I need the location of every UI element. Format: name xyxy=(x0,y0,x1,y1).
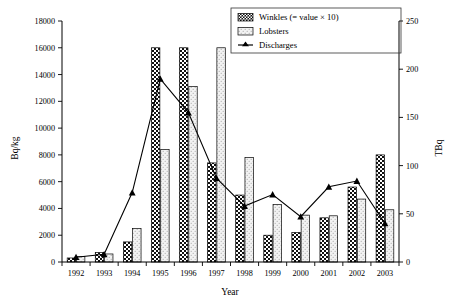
left-tick-label: 8000 xyxy=(39,151,55,160)
bar-light-1999 xyxy=(273,204,281,262)
x-axis-title: Year xyxy=(221,287,239,297)
left-tick-label: 4000 xyxy=(39,204,55,213)
x-tick-label: 2003 xyxy=(377,269,393,278)
y-axis-title-left: Bq/kg xyxy=(10,136,20,159)
x-tick-label: 1999 xyxy=(264,269,280,278)
left-tick-label: 16000 xyxy=(35,44,55,53)
left-tick-label: 10000 xyxy=(35,124,55,133)
bar-dark-1994 xyxy=(123,242,131,262)
right-axis-ticks: 050100150200250 xyxy=(399,17,418,267)
right-tick-label: 50 xyxy=(406,210,414,219)
right-tick-label: 200 xyxy=(406,65,418,74)
x-tick-label: 1996 xyxy=(180,269,196,278)
bar-light-2001 xyxy=(329,216,337,262)
left-tick-label: 18000 xyxy=(35,17,55,26)
x-tick-label: 1993 xyxy=(96,269,112,278)
bar-light-1997 xyxy=(217,48,225,262)
bar-light-2002 xyxy=(357,199,365,262)
x-tick-label: 1998 xyxy=(236,269,252,278)
bar-dark-1997 xyxy=(208,163,216,262)
left-tick-label: 6000 xyxy=(39,178,55,187)
bar-dark-2000 xyxy=(292,233,300,262)
y-axis-title-right: TBq xyxy=(434,139,444,156)
bar-dark-1996 xyxy=(180,48,188,262)
right-tick-label: 100 xyxy=(406,162,418,171)
x-tick-label: 1992 xyxy=(68,269,84,278)
legend-swatch-winkles xyxy=(238,14,253,22)
x-tick-label: 1994 xyxy=(124,269,140,278)
chart-canvas: 0200040006000800010000120001400016000180… xyxy=(0,0,455,306)
bar-dark-1999 xyxy=(264,235,272,262)
bar-light-1998 xyxy=(245,158,253,262)
legend-swatch-lobsters xyxy=(238,28,253,36)
left-tick-label: 12000 xyxy=(35,97,55,106)
left-axis-ticks: 0200040006000800010000120001400016000180… xyxy=(35,17,62,267)
bar-dark-2001 xyxy=(320,218,328,262)
bar-light-2000 xyxy=(301,215,309,262)
bar-dark-2003 xyxy=(376,155,384,262)
left-tick-label: 14000 xyxy=(35,71,55,80)
x-axis-ticks: 1992199319941995199619971998199920002001… xyxy=(62,262,399,278)
legend-label-lobsters: Lobsters xyxy=(259,26,289,36)
right-tick-label: 250 xyxy=(406,17,418,26)
legend-label-winkles: Winkles (= value × 10) xyxy=(259,12,339,22)
left-tick-label: 2000 xyxy=(39,231,55,240)
x-tick-label: 2001 xyxy=(321,269,337,278)
x-tick-label: 1997 xyxy=(208,269,224,278)
x-tick-label: 1995 xyxy=(152,269,168,278)
bar-light-2003 xyxy=(385,210,393,262)
legend-label-discharges: Discharges xyxy=(259,40,298,50)
right-tick-label: 0 xyxy=(406,258,410,267)
bar-dark-2002 xyxy=(348,187,356,262)
left-tick-label: 0 xyxy=(51,258,55,267)
x-tick-label: 2002 xyxy=(349,269,365,278)
right-tick-label: 150 xyxy=(406,113,418,122)
chart-figure: 0200040006000800010000120001400016000180… xyxy=(0,0,455,306)
x-tick-label: 2000 xyxy=(293,269,309,278)
bar-light-1994 xyxy=(133,229,141,262)
bar-light-1995 xyxy=(161,150,169,262)
